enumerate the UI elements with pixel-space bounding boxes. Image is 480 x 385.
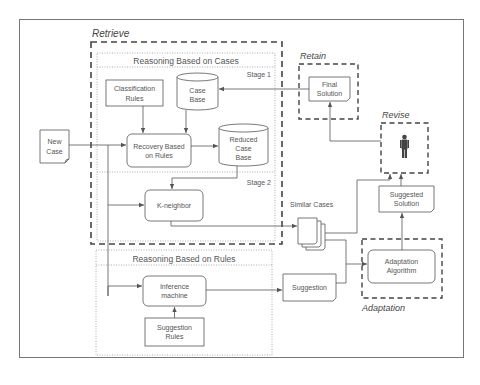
svg-text:Solution: Solution [394, 200, 419, 207]
suggested-solution-node: Suggested Solution [379, 186, 434, 212]
stage1-label: Stage 1 [247, 71, 271, 79]
svg-text:Reduced: Reduced [229, 136, 257, 143]
svg-text:Classification: Classification [114, 85, 155, 92]
similar-cases-node [298, 218, 325, 250]
svg-text:Suggestion: Suggestion [157, 324, 192, 332]
retrieve-label: Retrieve [92, 28, 130, 39]
suggestion-node: Suggestion [283, 274, 336, 301]
final-solution-node: Final Solution [309, 77, 350, 101]
inference-machine-node: Inference machine [143, 276, 206, 306]
svg-text:Case: Case [46, 148, 62, 155]
svg-text:machine: machine [161, 292, 188, 299]
stage2-label: Stage 2 [247, 179, 271, 187]
suggestion-rules-node: Suggestion Rules [145, 318, 204, 346]
cases-section-title: Reasoning Based on Cases [133, 56, 238, 66]
svg-text:New: New [47, 138, 62, 145]
svg-text:Inference: Inference [160, 283, 189, 290]
svg-text:Final: Final [322, 81, 338, 88]
svg-text:Solution: Solution [317, 90, 342, 97]
svg-text:on Rules: on Rules [145, 152, 173, 159]
svg-text:K-neighbor: K-neighbor [157, 202, 192, 210]
svg-text:Case: Case [235, 145, 251, 152]
revise-label: Revise [382, 110, 410, 120]
svg-text:Base: Base [236, 154, 252, 161]
svg-text:Case: Case [189, 87, 205, 94]
svg-text:Suggestion: Suggestion [292, 284, 327, 292]
svg-text:Base: Base [190, 96, 206, 103]
classification-rules-node: Classification Rules [106, 80, 163, 106]
retain-label: Retain [300, 51, 326, 61]
k-neighbor-node: K-neighbor [145, 190, 203, 221]
svg-text:Recovery Based: Recovery Based [133, 143, 184, 151]
recovery-node: Recovery Based on Rules [127, 134, 191, 167]
case-base-node: Case Base [177, 73, 218, 110]
similar-cases-label: Similar Cases [290, 201, 334, 208]
cbr-diagram: Retrieve Reasoning Based on Cases Stage … [0, 0, 480, 385]
connectors [69, 89, 402, 318]
svg-text:Rules: Rules [126, 95, 144, 102]
adaptation-label: Adaptation [361, 303, 405, 313]
rules-section-title: Reasoning Based on Rules [132, 254, 235, 264]
adaptation-algorithm-node: Adaptation Algorithm [368, 250, 435, 283]
svg-text:Suggested: Suggested [390, 191, 424, 199]
svg-text:Adaptation: Adaptation [385, 258, 419, 266]
svg-text:Rules: Rules [166, 333, 184, 340]
svg-text:Algorithm: Algorithm [387, 267, 417, 275]
person-icon [400, 135, 409, 158]
reduced-case-base-node: Reduced Case Base [219, 124, 268, 166]
new-case-node: New Case [40, 130, 69, 163]
